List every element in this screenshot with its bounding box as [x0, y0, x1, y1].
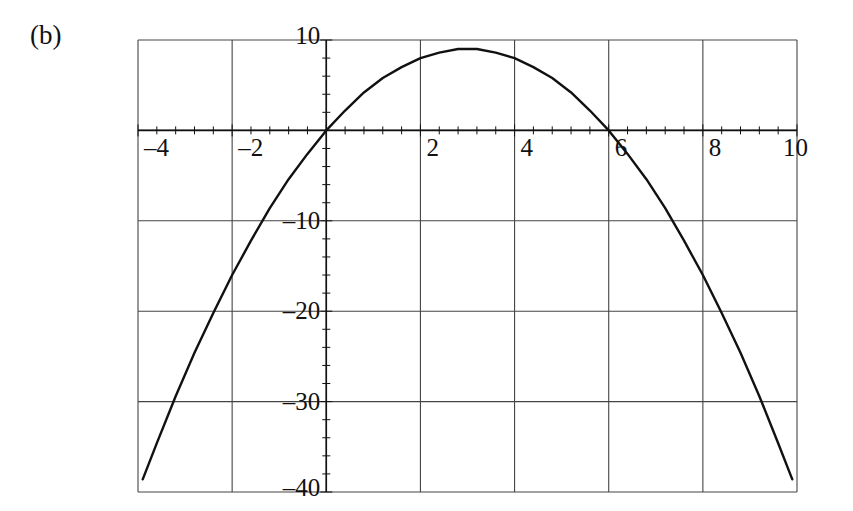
parabola-plot: –4–2246810 10–10–20–30–40 — [0, 0, 853, 511]
x-tick-label: 10 — [783, 134, 808, 161]
figure-panel: (b) –4–2246810 10–10–20–30–40 — [0, 0, 853, 511]
x-axis-tick-labels: –4–2246810 — [143, 134, 808, 161]
x-tick-label: –2 — [237, 134, 263, 161]
y-tick-label: –30 — [282, 388, 321, 415]
y-axis-tick-labels: 10–10–20–30–40 — [282, 22, 321, 501]
y-tick-label: –10 — [282, 207, 321, 234]
x-tick-label: 6 — [615, 134, 628, 161]
x-tick-label: 2 — [426, 134, 439, 161]
curve-parabola — [143, 49, 793, 479]
x-tick-label: –4 — [143, 134, 170, 161]
y-tick-label: –40 — [282, 474, 321, 501]
x-tick-label: 4 — [521, 134, 534, 161]
x-tick-label: 8 — [709, 134, 722, 161]
y-tick-label: 10 — [295, 22, 320, 49]
y-tick-label: –20 — [282, 297, 321, 324]
